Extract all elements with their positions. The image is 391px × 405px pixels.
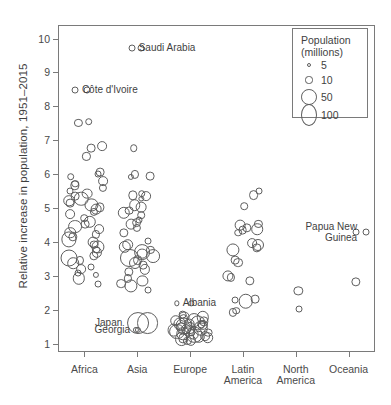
x-tick-mark [137, 352, 138, 357]
data-point [245, 276, 254, 285]
y-tick-label: 5 [44, 202, 50, 214]
annotation-label-albania: Albania [183, 298, 216, 309]
legend-entry: 5 [301, 59, 327, 71]
legend-circle-icon [301, 76, 317, 83]
data-point [139, 264, 149, 274]
legend-title: Population (millions) [301, 34, 351, 58]
data-point [240, 202, 248, 210]
x-axis-label-africa: Africa [71, 364, 98, 375]
data-point [296, 305, 303, 312]
legend-value: 100 [321, 109, 339, 121]
legend-value: 5 [321, 59, 327, 71]
data-point [92, 272, 98, 278]
legend-entry: 100 [301, 104, 339, 126]
data-point-albania [174, 301, 179, 306]
legend-circle-icon [301, 89, 317, 105]
data-point [188, 329, 196, 337]
x-axis-label-europe: Europe [173, 364, 207, 375]
data-point [61, 232, 76, 247]
x-tick-mark [349, 352, 350, 357]
data-point [226, 243, 239, 256]
legend: Population (millions) 51050100 [292, 28, 368, 118]
y-tick-label: 9 [44, 66, 50, 78]
data-point [238, 294, 253, 309]
x-axis-label-oceania: Oceania [329, 364, 368, 375]
data-point [80, 215, 88, 223]
data-point-saudi-arabia [129, 45, 136, 52]
data-point-c-te-d-ivoire [72, 87, 79, 94]
y-axis-title: Relative increase in population, 1951–20… [17, 11, 29, 341]
data-point [128, 174, 134, 180]
data-point [252, 243, 261, 252]
legend-value: 50 [321, 91, 333, 103]
data-point [74, 118, 82, 126]
data-point [144, 287, 151, 294]
legend-circle-icon [301, 63, 317, 68]
y-tick-label: 7 [44, 134, 50, 146]
legend-value: 10 [321, 74, 333, 86]
data-point [234, 229, 242, 237]
data-point [118, 207, 130, 219]
x-tick-mark [190, 352, 191, 357]
data-point [87, 263, 94, 270]
data-point [229, 308, 237, 316]
data-point [130, 144, 138, 152]
data-point [249, 190, 259, 200]
y-tick-label: 6 [44, 168, 50, 180]
data-point [71, 192, 80, 201]
data-point [146, 171, 155, 180]
legend-circle-icon [301, 104, 317, 126]
data-point [82, 188, 93, 199]
data-point [82, 152, 90, 160]
y-tick-label: 8 [44, 100, 50, 112]
data-point [197, 320, 205, 328]
data-point [85, 118, 93, 126]
data-point [97, 141, 107, 151]
y-tick-label: 1 [44, 338, 50, 350]
data-point [95, 281, 102, 288]
y-tick-label: 4 [44, 236, 50, 248]
y-tick-label: 3 [44, 270, 50, 282]
data-point [65, 209, 75, 219]
data-point-papua-new-guinea [362, 229, 369, 236]
annotation-label-papua-new-guinea: Papua New Guinea [305, 222, 357, 243]
x-axis-label-latin-america: Latin America [224, 364, 263, 386]
data-point [144, 238, 151, 245]
annotation-label-c-te-d-ivoire: Côte d'Ivoire [82, 85, 138, 96]
x-axis-label-north-america: North America [276, 364, 315, 386]
data-point [202, 332, 214, 344]
annotation-label-georgia: Georgia [95, 325, 131, 336]
data-point [119, 228, 128, 237]
data-point [90, 208, 98, 216]
data-point [89, 251, 98, 260]
data-point [137, 275, 148, 286]
legend-entry: 50 [301, 89, 333, 105]
legend-entry: 10 [301, 74, 333, 86]
data-point [294, 286, 303, 295]
data-point [252, 224, 264, 236]
x-tick-mark [296, 352, 297, 357]
data-point [146, 249, 160, 263]
data-point [87, 144, 96, 153]
y-tick-label: 2 [44, 304, 50, 316]
x-axis-label-asia: Asia [127, 364, 147, 375]
x-tick-mark [84, 352, 85, 357]
data-point [231, 297, 238, 304]
y-tick-label: 10 [38, 33, 50, 45]
data-point [227, 273, 235, 281]
data-point [73, 272, 85, 284]
data-point [233, 258, 243, 268]
data-point [132, 224, 140, 232]
data-point [351, 277, 360, 286]
data-point [99, 184, 107, 192]
scatter-chart: Relative increase in population, 1951–20… [0, 0, 391, 405]
annotation-label-saudi-arabia: Saudi Arabia [139, 43, 196, 54]
x-tick-mark [243, 352, 244, 357]
data-point [124, 280, 137, 293]
